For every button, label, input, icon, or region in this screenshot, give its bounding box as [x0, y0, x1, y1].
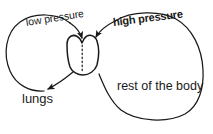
- label-rest-of-the-body: rest of the body: [117, 80, 203, 93]
- systemic-loop-path: [99, 13, 203, 120]
- arrow-out-to-lungs-path: [48, 72, 73, 89]
- circulation-diagram: low pressure high pressure lungs rest of…: [0, 0, 213, 134]
- pulmonary-loop-path: [6, 15, 70, 91]
- label-lungs: lungs: [22, 92, 53, 105]
